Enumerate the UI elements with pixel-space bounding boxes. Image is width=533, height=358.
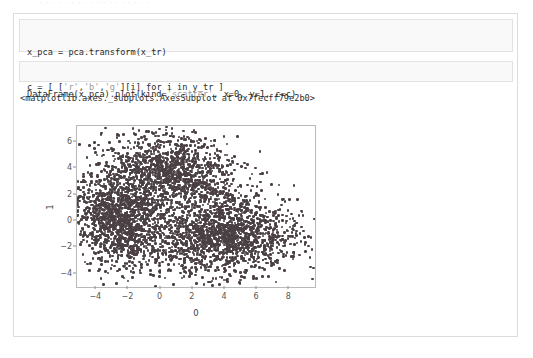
x-tick-mark [159,286,160,289]
cell-output-repr: <matplotlib.axes._subplots.AxesSubplot a… [20,92,514,104]
x-tick-label: −2 [122,292,134,301]
scatter-figure: −4−20246−4−202468 0 1 [34,117,334,329]
y-axis-label-text: 1 [45,204,55,209]
code-text: x_pca = pca.transform(x_tr) [27,47,167,57]
x-axis-label: 0 [76,308,316,318]
y-tick-mark [73,246,76,247]
y-tick-label: 6 [67,136,72,145]
y-tick-label: 4 [67,163,72,172]
screenshot-root: · · · · · · · · · · · · · · · · · · x_pc… [0,0,533,358]
x-tick-label: −4 [89,292,101,301]
x-tick-mark [95,286,96,289]
y-tick-label: 0 [67,216,72,225]
code-cell-1[interactable]: x_pca = pca.transform(x_tr) c = [ ['r','… [19,19,513,52]
axis-ticks: −4−20246−4−202468 [76,125,316,288]
code-line: x_pca = pca.transform(x_tr) [27,47,505,59]
x-tick-mark [256,286,257,289]
x-tick-label: 6 [254,292,259,301]
code-cell-2[interactable]: DataFrame(x_pca).plot(kind='scatter', x=… [19,61,513,82]
y-tick-mark [73,140,76,141]
x-tick-mark [191,286,192,289]
x-tick-label: 8 [286,292,291,301]
y-tick-mark [73,167,76,168]
y-tick-mark [73,272,76,273]
y-tick-label: −4 [60,268,72,277]
notebook-container: x_pca = pca.transform(x_tr) c = [ ['r','… [13,13,518,337]
y-tick-label: −2 [60,242,72,251]
x-tick-mark [127,286,128,289]
x-tick-label: 4 [221,292,226,301]
y-tick-mark [73,220,76,221]
x-tick-mark [223,286,224,289]
clipped-top-row: · · · · · · · · · · · · · · · · · · [0,0,533,7]
x-tick-label: 2 [189,292,194,301]
x-tick-mark [288,286,289,289]
y-tick-label: 2 [67,189,72,198]
y-axis-label: 1 [44,125,56,288]
y-tick-mark [73,193,76,194]
x-tick-label: 0 [157,292,162,301]
